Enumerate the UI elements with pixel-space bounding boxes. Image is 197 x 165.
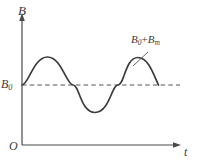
origin-label: O — [9, 140, 18, 152]
magnetic-field-plot — [0, 0, 197, 165]
peak-value-label: B0+Bm — [131, 34, 160, 47]
figure-container: B t O B0 B0+Bm — [0, 0, 197, 165]
y-axis-label: B — [18, 4, 26, 17]
x-axis-label: t — [184, 146, 187, 158]
baseline-value-label: B0 — [1, 78, 12, 92]
peak-label-second-subscript: m — [154, 38, 159, 47]
x-axis-arrowhead — [173, 142, 181, 148]
peak-label-first-main: B — [131, 33, 138, 45]
baseline-label-subscript: 0 — [8, 83, 12, 92]
peak-label-leader-line — [133, 52, 148, 66]
